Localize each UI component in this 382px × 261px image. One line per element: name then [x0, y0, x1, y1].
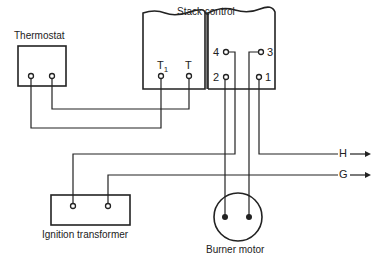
thermostat-label: Thermostat: [14, 30, 65, 41]
ignition-transformer-label: Ignition transformer: [42, 229, 128, 240]
motor-terminal-left: [222, 214, 228, 220]
terminal-t: [187, 74, 192, 79]
thermostat-box: [18, 46, 66, 86]
burner-motor-label: Burner motor: [206, 244, 264, 255]
terminal-3: [259, 50, 264, 55]
terminal-2: [224, 75, 229, 80]
terminal-4: [224, 50, 229, 55]
terminal-3-label: 3: [267, 46, 273, 58]
terminal-4-label: 4: [213, 46, 219, 58]
output-g-label: G: [339, 168, 348, 180]
arrow-right-icon: [365, 172, 371, 178]
output-h-label: H: [339, 147, 347, 159]
terminal-2-label: 2: [213, 71, 219, 83]
ignition-transformer-box: [51, 195, 130, 225]
arrow-right-icon: [365, 151, 371, 157]
motor-terminal-right: [246, 214, 252, 220]
terminal-t-label: T: [185, 59, 192, 71]
terminal-1-label: 1: [265, 71, 271, 83]
terminal-1: [257, 75, 262, 80]
stack-control-left-box: [143, 10, 205, 89]
burner-motor-circle: [214, 193, 262, 241]
thermostat-terminal-left: [29, 74, 34, 79]
terminal-t1-label: T1: [157, 59, 168, 74]
stack-control-label: Stack control: [177, 6, 235, 17]
ignition-terminal-left: [71, 204, 76, 209]
terminal-t1: [159, 74, 164, 79]
ignition-terminal-right: [106, 204, 111, 209]
thermostat-terminal-right: [50, 74, 55, 79]
